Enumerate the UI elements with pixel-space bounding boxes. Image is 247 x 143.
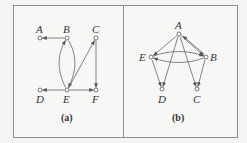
node-b bbox=[65, 36, 69, 40]
label-a: A bbox=[174, 19, 182, 31]
node-d bbox=[38, 88, 42, 92]
label-e: E bbox=[62, 93, 70, 105]
node-a bbox=[177, 32, 181, 36]
label-b: B bbox=[63, 23, 70, 35]
panel-a bbox=[43, 38, 97, 90]
edge-e-b bbox=[59, 41, 65, 88]
graph-diagrams: A B C D E F (a) A E B D C (b) bbox=[0, 0, 247, 143]
edge-b-a bbox=[183, 36, 204, 54]
caption-a: (a) bbox=[61, 112, 73, 124]
edge-b-e bbox=[69, 41, 75, 88]
label-d: D bbox=[157, 93, 166, 105]
panel-b bbox=[152, 36, 205, 87]
label-b: B bbox=[210, 51, 217, 63]
edge-e-d bbox=[152, 60, 161, 87]
node-f bbox=[94, 88, 98, 92]
node-c bbox=[195, 87, 199, 91]
node-a bbox=[38, 36, 42, 40]
label-c: C bbox=[193, 93, 201, 105]
node-d bbox=[160, 87, 164, 91]
label-f: F bbox=[91, 93, 99, 105]
label-c: C bbox=[92, 23, 100, 35]
node-e bbox=[65, 88, 69, 92]
edge-a-c bbox=[180, 37, 196, 87]
caption-b: (b) bbox=[172, 112, 184, 124]
label-e: E bbox=[138, 51, 146, 63]
node-b bbox=[204, 55, 208, 59]
label-a: A bbox=[35, 23, 43, 35]
panel-a-nodes bbox=[38, 36, 98, 92]
node-e bbox=[149, 55, 153, 59]
edge-b-e bbox=[154, 58, 204, 63]
node-c bbox=[94, 36, 98, 40]
label-d: D bbox=[35, 93, 44, 105]
edge-b-c bbox=[198, 60, 205, 87]
edge-e-c bbox=[69, 41, 95, 89]
edge-e-b bbox=[154, 52, 204, 57]
